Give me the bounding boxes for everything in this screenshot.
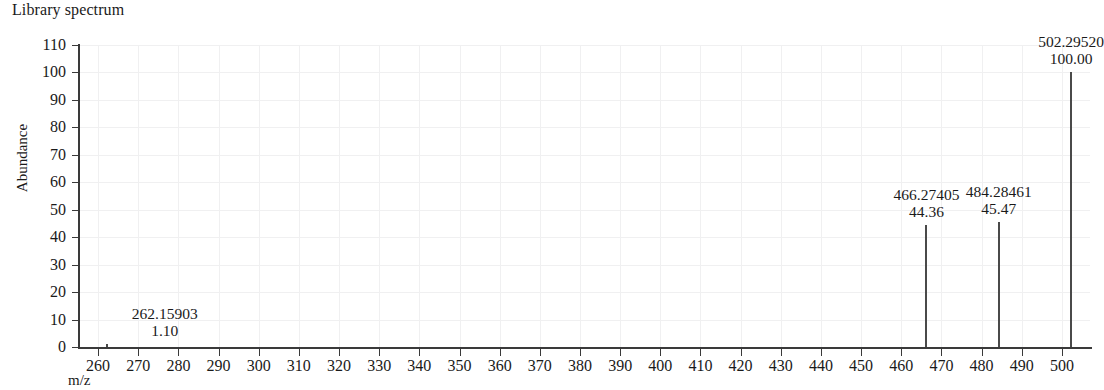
y-axis-tick-label: 40: [26, 229, 66, 245]
peak-intensity-value: 44.36: [894, 203, 960, 220]
y-axis-tick-label: 100: [26, 64, 66, 80]
gridline-vertical: [861, 45, 862, 348]
x-axis-tick: [379, 349, 380, 356]
x-axis-tick: [259, 349, 260, 356]
x-axis-tick-label: 370: [517, 357, 563, 375]
peak-mz-value: 262.15903: [132, 305, 198, 322]
x-axis-tick-label: 310: [276, 357, 322, 375]
x-axis-tick: [620, 349, 621, 356]
x-axis-tick: [901, 349, 902, 356]
y-axis-tick: [72, 72, 79, 73]
x-axis-tick: [339, 349, 340, 356]
peak-label: 484.2846145.47: [966, 183, 1032, 217]
x-axis-line: [78, 347, 1092, 349]
x-axis-tick-label: 420: [718, 357, 764, 375]
x-axis-tick-label: 290: [196, 357, 242, 375]
y-axis-tick: [72, 210, 79, 211]
gridline-vertical: [741, 45, 742, 348]
x-axis-tick-label: 330: [356, 357, 402, 375]
x-axis-tick-label: 340: [396, 357, 442, 375]
x-axis-tick-label: 470: [918, 357, 964, 375]
x-axis-tick-label: 410: [677, 357, 723, 375]
gridline-vertical: [419, 45, 420, 348]
x-axis-tick: [419, 349, 420, 356]
peak-label: 502.29520100.00: [1038, 33, 1104, 67]
y-axis-tick: [72, 292, 79, 293]
gridline-vertical: [540, 45, 541, 348]
gridline-vertical: [219, 45, 220, 348]
x-axis-tick: [138, 349, 139, 356]
x-axis-tick: [219, 349, 220, 356]
peak-label: 466.2740544.36: [894, 186, 960, 220]
y-axis-tick-label: 0: [26, 339, 66, 355]
gridline-vertical: [781, 45, 782, 348]
x-axis-tick-label: 500: [1039, 357, 1085, 375]
x-axis-tick: [781, 349, 782, 356]
x-axis-tick-label: 270: [115, 357, 161, 375]
x-axis-tick: [861, 349, 862, 356]
gridline-vertical: [500, 45, 501, 348]
x-axis-tick: [741, 349, 742, 356]
x-axis-tick-label: 430: [758, 357, 804, 375]
peak-label: 262.159031.10: [132, 305, 198, 339]
gridline-vertical: [620, 45, 621, 348]
gridline-vertical: [460, 45, 461, 348]
gridline-vertical: [580, 45, 581, 348]
y-axis-tick: [72, 100, 79, 101]
x-axis-tick: [540, 349, 541, 356]
gridline-vertical: [660, 45, 661, 348]
x-axis-tick: [1022, 349, 1023, 356]
x-axis-tick: [460, 349, 461, 356]
gridline-vertical: [700, 45, 701, 348]
y-axis-tick: [72, 182, 79, 183]
peak-intensity-value: 1.10: [132, 322, 198, 339]
gridline-vertical: [339, 45, 340, 348]
x-axis-tick-label: 480: [959, 357, 1005, 375]
y-axis-tick-label: 70: [26, 147, 66, 163]
y-axis-tick-label: 10: [26, 312, 66, 328]
x-axis-title: m/z: [68, 372, 91, 388]
gridline-horizontal: [78, 320, 1090, 321]
peak-line: [925, 225, 927, 347]
gridline-horizontal: [78, 155, 1090, 156]
peak-mz-value: 484.28461: [966, 183, 1032, 200]
y-axis-tick-label: 50: [26, 202, 66, 218]
peak-intensity-value: 45.47: [966, 200, 1032, 217]
x-axis-tick: [500, 349, 501, 356]
peak-line: [106, 344, 108, 347]
gridline-horizontal: [78, 292, 1090, 293]
peak-mz-value: 466.27405: [894, 186, 960, 203]
x-axis-tick: [821, 349, 822, 356]
x-axis-tick-label: 440: [798, 357, 844, 375]
y-axis-tick: [72, 127, 79, 128]
gridline-horizontal: [78, 182, 1090, 183]
x-axis-tick: [660, 349, 661, 356]
x-axis-tick: [580, 349, 581, 356]
gridline-vertical: [259, 45, 260, 348]
y-axis-tick: [72, 265, 79, 266]
x-axis-tick: [98, 349, 99, 356]
gridline-vertical: [98, 45, 99, 348]
x-axis-tick: [1062, 349, 1063, 356]
x-axis-tick: [700, 349, 701, 356]
x-axis-tick-label: 390: [597, 357, 643, 375]
gridline-vertical: [1062, 45, 1063, 348]
x-axis-tick-label: 490: [999, 357, 1045, 375]
page-title: Library spectrum: [12, 1, 124, 19]
x-axis-tick-label: 280: [155, 357, 201, 375]
x-axis-tick-label: 350: [437, 357, 483, 375]
gridline-vertical: [178, 45, 179, 348]
peak-intensity-value: 100.00: [1038, 50, 1104, 67]
x-axis-tick-label: 450: [838, 357, 884, 375]
gridline-horizontal: [78, 45, 1090, 46]
peak-line: [1070, 72, 1072, 347]
gridline-horizontal: [78, 265, 1090, 266]
peak-line: [998, 222, 1000, 347]
gridline-horizontal: [78, 237, 1090, 238]
x-axis-tick-label: 400: [637, 357, 683, 375]
y-axis-tick: [72, 320, 79, 321]
y-axis-tick-label: 20: [26, 284, 66, 300]
y-axis-tick: [72, 155, 79, 156]
y-axis-line: [78, 44, 80, 349]
